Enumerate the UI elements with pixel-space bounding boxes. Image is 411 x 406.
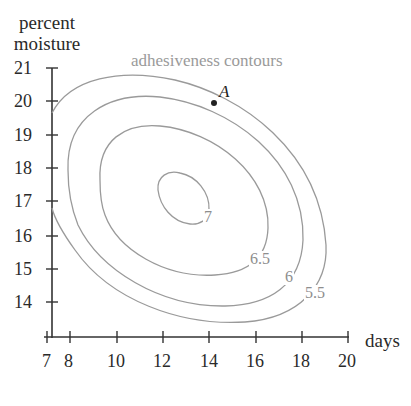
contour-label-6: 6 bbox=[284, 269, 294, 285]
x-tick-label: 20 bbox=[338, 352, 356, 370]
contour-label-5.5: 5.5 bbox=[304, 285, 326, 301]
y-axis-title: percent moisture bbox=[8, 13, 86, 53]
point-a bbox=[211, 100, 217, 106]
chart-title: adhesiveness contours bbox=[131, 52, 283, 69]
x-tick-label: 7 bbox=[42, 352, 51, 370]
y-tick-label: 19 bbox=[14, 126, 32, 144]
y-tick-label: 16 bbox=[14, 227, 32, 245]
y-axis-title-line2: moisture bbox=[8, 34, 86, 53]
x-axis-title: days bbox=[365, 331, 400, 350]
contour-6.5 bbox=[100, 126, 268, 276]
y-tick-label: 17 bbox=[14, 192, 32, 210]
y-tick-label: 15 bbox=[14, 260, 32, 278]
contour-label-6.5: 6.5 bbox=[249, 251, 271, 267]
x-tick-label: 12 bbox=[153, 352, 171, 370]
contour-label-7: 7 bbox=[203, 209, 213, 225]
y-tick-label: 14 bbox=[14, 293, 32, 311]
contour-7 bbox=[158, 172, 209, 224]
x-tick-label: 14 bbox=[200, 352, 218, 370]
point-a-label: A bbox=[219, 83, 229, 100]
y-tick-label: 20 bbox=[14, 92, 32, 110]
y-tick-label: 21 bbox=[14, 59, 32, 77]
contour-lines bbox=[52, 75, 326, 322]
y-axis-title-line1: percent bbox=[8, 13, 86, 32]
x-tick-label: 18 bbox=[292, 352, 310, 370]
y-tick-label: 18 bbox=[14, 159, 32, 177]
x-tick-label: 16 bbox=[246, 352, 264, 370]
x-tick-label: 8 bbox=[64, 352, 73, 370]
x-tick-label: 10 bbox=[107, 352, 125, 370]
